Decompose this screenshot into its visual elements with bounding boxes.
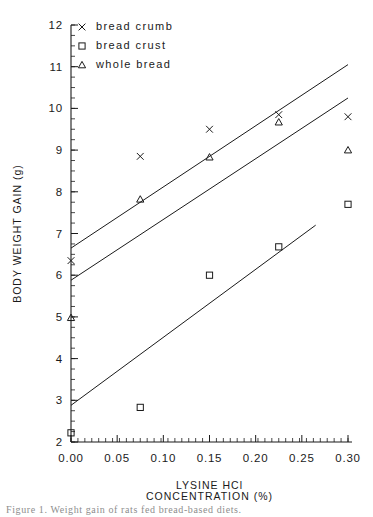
y-tick-label: 11 bbox=[49, 61, 63, 73]
data-point-whole-bread bbox=[137, 196, 144, 202]
x-tick-label: 0.00 bbox=[58, 452, 84, 464]
data-point-bread-crust bbox=[345, 201, 351, 207]
y-tick-label: 5 bbox=[56, 311, 63, 323]
data-point-whole-bread bbox=[275, 119, 282, 125]
regression-line-whole-bread bbox=[71, 98, 348, 280]
x-tick-label: 0.20 bbox=[243, 452, 269, 464]
y-tick-label: 9 bbox=[56, 144, 63, 156]
figure-caption-strip: Figure 1. Weight gain of rats fed bread-… bbox=[0, 503, 373, 517]
legend-label-whole-bread: whole bread bbox=[95, 58, 171, 70]
y-tick-label: 6 bbox=[56, 269, 63, 281]
data-point-bread-crust bbox=[276, 244, 282, 250]
y-tick-label: 2 bbox=[56, 436, 63, 448]
regression-line-bread-crust bbox=[71, 225, 316, 405]
x-axis-title-line2: CONCENTRATION (%) bbox=[146, 490, 273, 502]
legend-label-bread-crumb: bread crumb bbox=[96, 20, 173, 32]
x-tick-label: 0.25 bbox=[289, 452, 315, 464]
data-point-whole-bread bbox=[344, 147, 351, 153]
x-tick-label: 0.10 bbox=[151, 452, 177, 464]
y-tick-label: 8 bbox=[56, 186, 63, 198]
figure-caption: Figure 1. Weight gain of rats fed bread-… bbox=[6, 504, 242, 515]
legend-marker-triangle bbox=[78, 61, 85, 67]
y-tick-label: 12 bbox=[49, 19, 63, 31]
data-point-bread-crumb bbox=[345, 113, 352, 120]
x-tick-label: 0.15 bbox=[197, 452, 223, 464]
y-tick-label: 3 bbox=[56, 394, 63, 406]
y-tick-label: 4 bbox=[56, 353, 63, 365]
x-tick-label: 0.30 bbox=[335, 452, 361, 464]
data-point-bread-crumb bbox=[206, 126, 213, 133]
y-tick-label: 10 bbox=[49, 102, 63, 114]
legend-label-bread-crust: bread crust bbox=[96, 39, 166, 51]
y-tick-label: 7 bbox=[56, 228, 63, 240]
data-point-bread-crust bbox=[206, 272, 212, 278]
data-point-bread-crumb bbox=[275, 111, 282, 118]
chart-canvas: 0.000.050.100.150.200.250.30234567891011… bbox=[0, 0, 373, 517]
regression-line-bread-crumb bbox=[71, 65, 348, 248]
x-tick-label: 0.05 bbox=[104, 452, 130, 464]
legend-marker-square bbox=[79, 43, 85, 49]
y-axis-title: BODY WEIGHT GAIN (g) bbox=[11, 164, 23, 303]
data-point-bread-crumb bbox=[137, 153, 144, 160]
data-point-bread-crust bbox=[137, 404, 143, 410]
legend-marker-x bbox=[79, 24, 86, 31]
scatter-plot-figure: 0.000.050.100.150.200.250.30234567891011… bbox=[0, 0, 373, 517]
